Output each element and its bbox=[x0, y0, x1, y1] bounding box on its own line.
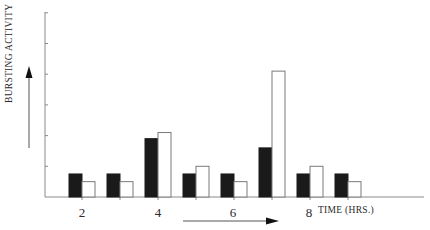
bar-black bbox=[259, 148, 272, 197]
bar-white bbox=[272, 71, 285, 197]
right-arrow-icon bbox=[266, 218, 279, 225]
bar-white bbox=[158, 133, 171, 197]
bar-white bbox=[234, 182, 247, 197]
up-arrow-icon bbox=[26, 66, 33, 78]
bar-black bbox=[297, 174, 310, 197]
x-tick-label: 2 bbox=[79, 205, 86, 221]
bar-black bbox=[183, 174, 196, 197]
x-tick-label: 8 bbox=[306, 205, 313, 221]
bars bbox=[69, 71, 361, 197]
y-axis-label: BURSTING ACTIVITY bbox=[4, 4, 14, 103]
bar-black bbox=[69, 174, 82, 197]
bar-black bbox=[221, 174, 234, 197]
bar-black bbox=[107, 174, 120, 197]
x-axis-label: TIME (HRS.) bbox=[318, 205, 374, 215]
x-tick-label: 4 bbox=[155, 205, 162, 221]
bar-white bbox=[310, 166, 323, 197]
bar-white bbox=[82, 182, 95, 197]
axes bbox=[45, 12, 424, 200]
bar-black bbox=[335, 174, 348, 197]
bar-chart bbox=[0, 0, 430, 230]
bar-white bbox=[120, 182, 133, 197]
bar-white bbox=[348, 182, 361, 197]
bar-white bbox=[196, 166, 209, 197]
x-tick-label: 6 bbox=[230, 205, 237, 221]
bar-black bbox=[145, 139, 158, 197]
